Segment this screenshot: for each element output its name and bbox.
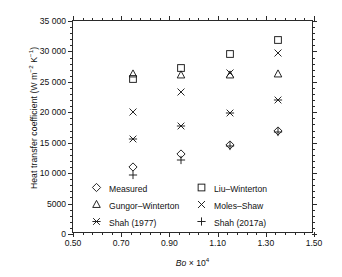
y-axis-minor-tick: [312, 100, 315, 101]
x-axis-minor-tick: [160, 232, 161, 235]
y-axis-minor-tick: [312, 88, 315, 89]
y-axis-tick: [68, 204, 73, 205]
chart-legend: MeasuredLiu–WintertonGungor–WintertonMol…: [92, 180, 310, 231]
y-axis-minor-tick: [70, 39, 73, 40]
y-axis-minor-tick: [312, 228, 315, 229]
x-axis-tick: [73, 232, 74, 237]
y-axis-minor-tick: [312, 27, 315, 28]
y-axis-minor-tick: [312, 45, 315, 46]
legend-marker-cross-icon: [197, 200, 209, 212]
x-axis-minor-tick: [150, 18, 151, 21]
y-axis-minor-tick: [70, 197, 73, 198]
y-axis-minor-tick: [70, 88, 73, 89]
y-axis-title: Heat transfer coefficient (W m−2 K−1): [27, 18, 39, 218]
x-axis-minor-tick: [92, 232, 93, 235]
x-axis-minor-tick: [285, 18, 286, 21]
y-axis-tick: [312, 112, 317, 113]
y-axis-minor-tick: [70, 185, 73, 186]
y-axis-minor-tick: [70, 210, 73, 211]
legend-item: Gungor–Winterton: [92, 200, 197, 212]
x-axis-minor-tick: [208, 232, 209, 235]
y-axis-tick: [312, 21, 317, 22]
legend-label: Liu–Winterton: [214, 184, 267, 194]
y-axis-tick-label: 30 000: [40, 46, 66, 56]
x-axis-minor-tick: [150, 232, 151, 235]
y-axis-tick: [68, 173, 73, 174]
x-axis-tick-label: 1.30: [257, 238, 274, 248]
x-axis-tick: [266, 16, 267, 21]
legend-item: Moles–Shaw: [197, 200, 310, 212]
x-axis-tick: [314, 16, 315, 21]
x-axis-minor-tick: [160, 18, 161, 21]
y-axis-minor-tick: [312, 149, 315, 150]
y-axis-minor-tick: [70, 179, 73, 180]
legend-item: Liu–Winterton: [197, 183, 310, 195]
x-axis-minor-tick: [140, 232, 141, 235]
x-axis-tick: [169, 16, 170, 21]
data-point: [273, 128, 282, 137]
y-axis-minor-tick: [70, 58, 73, 59]
y-axis-tick-label: 15 000: [40, 138, 66, 148]
legend-marker-triangle-icon: [92, 200, 104, 212]
y-axis-tick-label: 5000: [47, 199, 66, 209]
data-point: [225, 50, 234, 59]
y-axis-minor-tick: [70, 124, 73, 125]
legend-label: Gungor–Winterton: [109, 201, 179, 211]
x-axis-minor-tick: [275, 232, 276, 235]
x-axis-minor-tick: [83, 18, 84, 21]
y-axis-minor-tick: [312, 94, 315, 95]
data-point: [129, 135, 138, 144]
data-point: [177, 70, 186, 79]
x-axis-minor-tick: [285, 232, 286, 235]
y-axis-tick: [68, 51, 73, 52]
y-axis-minor-tick: [312, 137, 315, 138]
data-point: [177, 87, 186, 96]
x-axis-minor-tick: [92, 18, 93, 21]
x-axis-minor-tick: [237, 18, 238, 21]
x-axis-minor-tick: [102, 18, 103, 21]
x-axis-minor-tick: [275, 18, 276, 21]
y-axis-minor-tick: [70, 118, 73, 119]
x-axis-tick-label: 0.70: [113, 238, 130, 248]
y-axis-minor-tick: [70, 64, 73, 65]
y-axis-tick-label: 25 000: [40, 77, 66, 87]
x-axis-minor-tick: [189, 18, 190, 21]
y-axis-minor-tick: [312, 131, 315, 132]
x-axis-tick: [218, 232, 219, 237]
x-axis-minor-tick: [131, 232, 132, 235]
y-axis-minor-tick: [70, 70, 73, 71]
y-axis-minor-tick: [312, 39, 315, 40]
y-axis-tick: [312, 51, 317, 52]
y-axis-minor-tick: [70, 161, 73, 162]
y-axis-minor-tick: [312, 64, 315, 65]
x-axis-title: Bo × 104: [72, 256, 313, 268]
data-point: [273, 48, 282, 57]
x-axis-minor-tick: [256, 232, 257, 235]
x-axis-tick-label: 1.50: [306, 238, 323, 248]
y-axis-minor-tick: [312, 118, 315, 119]
x-axis-minor-tick: [256, 18, 257, 21]
x-axis-minor-tick: [208, 18, 209, 21]
y-axis-minor-tick: [312, 76, 315, 77]
legend-marker-plus-icon: [197, 217, 209, 229]
x-axis-minor-tick: [131, 18, 132, 21]
y-axis-minor-tick: [312, 33, 315, 34]
y-axis-tick-label: 20 000: [40, 107, 66, 117]
x-axis-minor-tick: [247, 232, 248, 235]
y-axis-minor-tick: [312, 222, 315, 223]
legend-marker-diamond-icon: [92, 183, 104, 195]
y-axis-tick: [68, 82, 73, 83]
y-axis-minor-tick: [312, 210, 315, 211]
y-axis-minor-tick: [312, 167, 315, 168]
data-point: [177, 121, 186, 130]
y-axis-minor-tick: [70, 137, 73, 138]
y-axis-tick: [312, 143, 317, 144]
x-axis-minor-tick: [140, 18, 141, 21]
x-axis-tick: [169, 232, 170, 237]
y-axis-minor-tick: [70, 228, 73, 229]
x-axis-tick: [266, 232, 267, 237]
data-point: [225, 68, 234, 77]
data-point: [129, 108, 138, 117]
x-axis-tick-label: 0.90: [161, 238, 178, 248]
y-axis-tick-label: 10 000: [40, 168, 66, 178]
